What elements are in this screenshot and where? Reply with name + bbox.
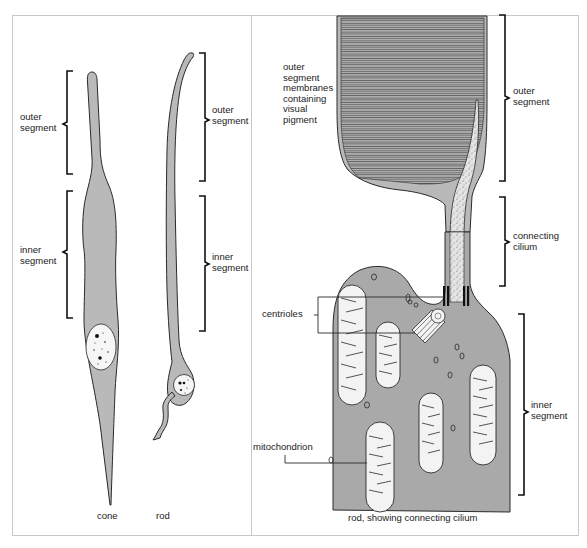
rod-inner-segment-label: inner segment	[212, 252, 248, 273]
rod-cell	[153, 53, 195, 440]
cone-nucleus	[86, 324, 116, 370]
cone-cell	[83, 72, 119, 505]
rod-inner-segment-bracket	[199, 196, 209, 331]
inner-segment-bracket	[518, 314, 528, 495]
cone-inner-segment-label: inner segment	[20, 245, 56, 266]
centrioles-label: centrioles	[262, 309, 303, 320]
rod-caption: rod	[156, 510, 170, 521]
rod-outer-segment-label: outer segment	[212, 105, 248, 126]
cone-outer-segment-label: outer segment	[20, 112, 56, 133]
membranes-label: outer segment membranes containing visua…	[283, 62, 333, 125]
connecting-cilium-label: connecting cilium	[513, 231, 559, 252]
outer-segment-bracket	[499, 15, 509, 181]
cone-caption: cone	[97, 510, 118, 521]
outer-segment-label: outer segment	[513, 86, 549, 107]
rod-nucleus	[174, 375, 195, 396]
rod-outer-segment-bracket	[199, 53, 209, 181]
inner-segment-label: inner segment	[531, 400, 567, 421]
connecting-cilium-bracket	[499, 197, 509, 286]
cone-inner-segment-bracket	[63, 191, 73, 318]
cone-outer-segment-bracket	[63, 71, 73, 174]
mitochondrion-label: mitochondrion	[253, 442, 313, 453]
right-panel-caption: rod, showing connecting cilium	[348, 512, 477, 523]
